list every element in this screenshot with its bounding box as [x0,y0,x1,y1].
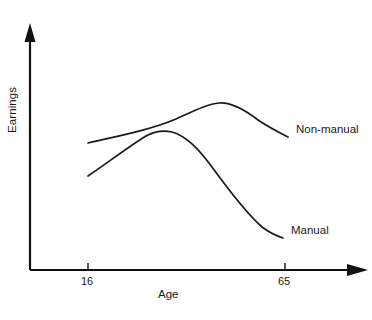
caption-fragment [52,311,352,320]
curve-non-manual [88,103,288,143]
y-axis-arrowhead-icon [25,23,36,42]
x-tick-label-65: 65 [278,276,290,287]
x-axis-label: Age [158,289,178,301]
y-axis-label: Earnings [7,87,19,133]
x-axis-arrowhead-icon [347,264,368,276]
series-label-manual: Manual [291,225,329,237]
chart-canvas [0,0,372,320]
earnings-age-figure: Earnings Age 16 65 Non-manual Manual [0,0,372,320]
curve-manual [88,131,283,238]
series-label-non-manual: Non-manual [296,124,359,136]
x-tick-label-16: 16 [81,276,93,287]
